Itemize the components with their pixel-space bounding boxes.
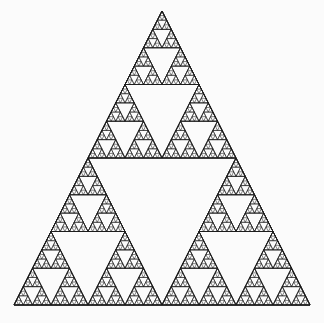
sierpinski-triangle-canvas xyxy=(0,0,324,323)
fractal-figure: Sierpinski Triangle Sierpinski triangle … xyxy=(0,0,324,323)
